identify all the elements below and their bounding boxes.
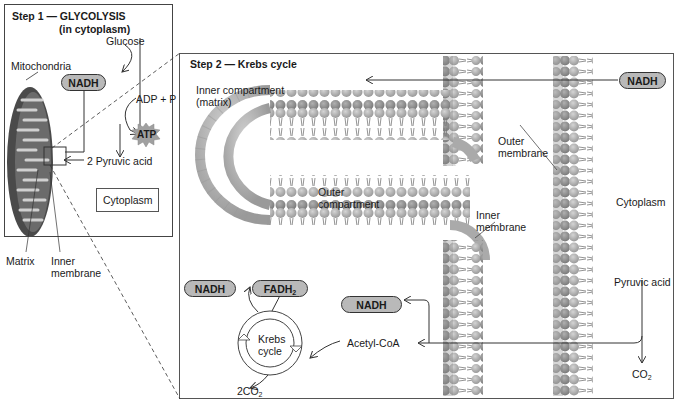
krebs-cycle-label-2: cycle: [258, 345, 282, 357]
krebs-cycle-label-1: Krebs: [258, 333, 285, 345]
two-co2-label: 2CO2: [237, 385, 263, 401]
inner-compartment-label-1: Inner compartment: [196, 84, 284, 96]
inner-membrane-label-s2-1: Inner: [476, 209, 500, 221]
outer-membrane-label-2: membrane: [498, 147, 548, 159]
nadh-pill-top: NADH: [619, 72, 666, 89]
co2-label: CO2: [632, 368, 652, 384]
outer-membrane-label-1: Outer: [498, 135, 524, 147]
cytoplasm-label-step2: Cytoplasm: [616, 196, 666, 208]
nadh-pill-mid: NADH: [341, 296, 402, 313]
nadh-pill-left: NADH: [184, 280, 236, 297]
fadh2-pill: FADH2: [252, 280, 308, 297]
acetyl-coa-label: Acetyl-CoA: [347, 337, 400, 349]
outer-compartment-label-1: Outer: [318, 186, 344, 198]
pyruvic-acid-label-step2: Pyruvic acid: [614, 276, 671, 288]
mitochondrion-illustration: [7, 72, 53, 237]
outer-compartment-label-2: compartment: [318, 198, 379, 210]
inner-membrane-label-s2-2: membrane: [476, 221, 526, 233]
atp-label: ATP: [137, 129, 156, 141]
inner-compartment-label-2: (matrix): [196, 96, 232, 108]
